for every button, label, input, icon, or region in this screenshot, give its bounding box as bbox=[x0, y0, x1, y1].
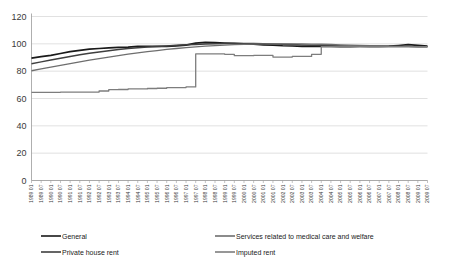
y-axis-tick-labels: 020406080100120 bbox=[11, 12, 26, 186]
y-axis-tick-label: 60 bbox=[16, 94, 26, 104]
x-axis-tick-label: 1995 01 bbox=[144, 184, 150, 203]
x-axis-tick-label: 2005 01 bbox=[337, 184, 343, 203]
x-axis-tick-label: 1995 07 bbox=[154, 184, 160, 203]
x-axis-tick-label: 2003 07 bbox=[308, 184, 314, 203]
x-axis-tick-label: 1997 07 bbox=[193, 184, 199, 203]
x-axis-tick-label: 2002 01 bbox=[280, 184, 286, 203]
y-axis-tick-label: 20 bbox=[16, 148, 26, 158]
x-axis-tick-label: 2007 07 bbox=[386, 184, 392, 203]
gridlines bbox=[32, 17, 428, 181]
data-series-group bbox=[32, 42, 428, 92]
x-axis-tick-label: 1991 01 bbox=[67, 184, 73, 203]
x-axis-tick-label: 1997 01 bbox=[183, 184, 189, 203]
x-axis-tick-label: 1993 01 bbox=[106, 184, 112, 203]
y-axis-tick-label: 120 bbox=[11, 12, 26, 22]
x-axis-tick-label: 2009 07 bbox=[424, 184, 430, 203]
x-axis-tick-label: 2004 07 bbox=[328, 184, 334, 203]
x-axis-tick-label: 1991 07 bbox=[77, 184, 83, 203]
line-chart: 020406080100120 1989 011989 071990 01199… bbox=[0, 0, 450, 271]
x-axis-tick-label: 1996 07 bbox=[173, 184, 179, 203]
y-axis-tick-label: 80 bbox=[16, 66, 26, 76]
legend-label: Imputed rent bbox=[236, 249, 275, 257]
x-axis-tick-label: 2009 01 bbox=[415, 184, 421, 203]
x-axis-tick-label: 1996 01 bbox=[164, 184, 170, 203]
x-axis-tick-label: 2000 01 bbox=[241, 184, 247, 203]
x-axis-tick-label: 2001 01 bbox=[260, 184, 266, 203]
x-axis-tick-label: 1998 01 bbox=[202, 184, 208, 203]
x-axis-tick-label: 2005 07 bbox=[347, 184, 353, 203]
y-axis-tick-label: 0 bbox=[21, 176, 26, 186]
x-axis-tick-label: 2008 01 bbox=[395, 184, 401, 203]
chart-canvas: 020406080100120 1989 011989 071990 01199… bbox=[0, 0, 450, 271]
chart-legend: GeneralServices related to medical care … bbox=[41, 233, 374, 257]
x-axis-tick-label: 1989 07 bbox=[38, 184, 44, 203]
series-line bbox=[32, 44, 428, 71]
x-axis-tick-label: 2004 01 bbox=[318, 184, 324, 203]
x-axis-tick-label: 1994 01 bbox=[125, 184, 131, 203]
x-axis-tick-label: 1990 01 bbox=[48, 184, 54, 203]
x-axis-tick-label: 2000 07 bbox=[251, 184, 257, 203]
x-axis-tick-label: 1992 07 bbox=[96, 184, 102, 203]
legend-label: Private house rent bbox=[62, 249, 119, 256]
x-axis-tick-labels: 1989 011989 071990 011990 071991 011991 … bbox=[28, 184, 430, 203]
x-axis-tick-label: 1998 07 bbox=[212, 184, 218, 203]
legend-label: General bbox=[62, 233, 87, 240]
x-axis-tick-label: 2006 01 bbox=[357, 184, 363, 203]
x-axis-tick-label: 2003 01 bbox=[299, 184, 305, 203]
y-axis-tick-label: 40 bbox=[16, 121, 26, 131]
x-axis-tick-label: 1999 01 bbox=[222, 184, 228, 203]
x-axis-tick-label: 2001 07 bbox=[270, 184, 276, 203]
x-axis-tick-label: 1993 07 bbox=[115, 184, 121, 203]
x-axis-tick-label: 1989 01 bbox=[28, 184, 34, 203]
x-axis-tick-label: 2007 01 bbox=[376, 184, 382, 203]
x-axis-tick-label: 1990 07 bbox=[57, 184, 63, 203]
legend-label: Services related to medical care and wel… bbox=[236, 233, 374, 240]
x-axis-tick-label: 2006 07 bbox=[366, 184, 372, 203]
x-axis-tick-label: 2002 07 bbox=[289, 184, 295, 203]
x-axis-tick-label: 2008 07 bbox=[405, 184, 411, 203]
y-axis-tick-label: 100 bbox=[11, 39, 26, 49]
x-axis-tick-label: 1999 07 bbox=[231, 184, 237, 203]
x-axis-tick-label: 1992 01 bbox=[86, 184, 92, 203]
x-axis-tick-label: 1994 07 bbox=[135, 184, 141, 203]
